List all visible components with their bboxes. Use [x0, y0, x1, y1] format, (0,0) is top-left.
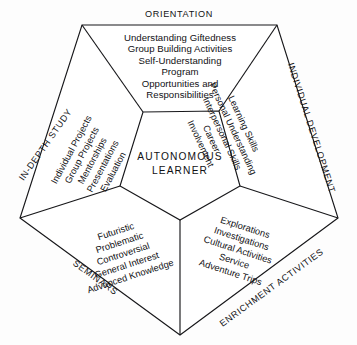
orientation-item-0: Understanding Giftedness — [124, 32, 236, 43]
center-label-line1: AUTONOMOUS — [137, 151, 222, 162]
sector-label-orientation: ORIENTATION — [145, 9, 213, 19]
orientation-item-2: Self-Understanding — [138, 55, 221, 66]
pentagon-diagram-svg: ORIENTATION Understanding Giftedness Gro… — [0, 0, 357, 345]
autonomous-learner-diagram: ORIENTATION Understanding Giftedness Gro… — [0, 0, 357, 345]
orientation-item-4: Opportunities and — [142, 78, 219, 89]
orientation-item-3: Program — [161, 66, 198, 77]
center-label-line2: LEARNER — [152, 165, 208, 176]
orientation-item-1: Group Building Activities — [128, 43, 233, 54]
